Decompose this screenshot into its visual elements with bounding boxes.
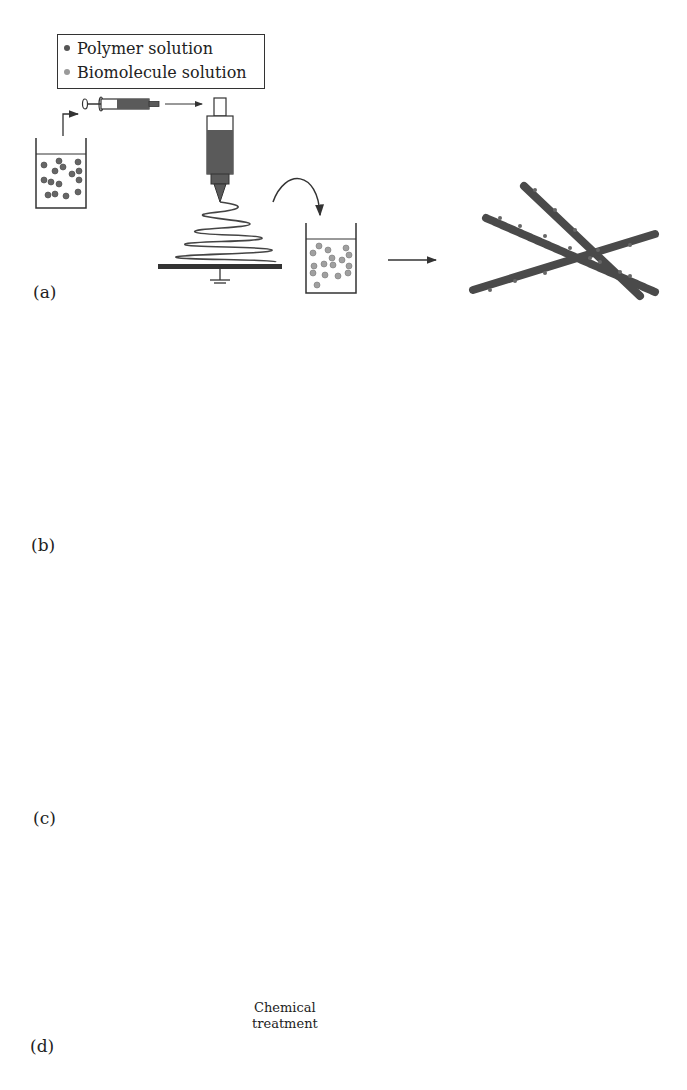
electrospinning-diagram <box>0 0 687 1090</box>
beaker-biomolecule-solution <box>306 223 356 293</box>
syringe-icon <box>83 97 160 111</box>
chemical-treatment-label: Chemical treatment <box>252 1000 318 1032</box>
legend-item-biomolecule: Biomolecule solution <box>64 63 247 82</box>
arrow-icon <box>63 114 78 136</box>
panel-label-d: (d) <box>30 1036 54 1056</box>
polymer-dot-icon <box>64 45 70 51</box>
panel-label-b: (b) <box>31 535 55 555</box>
biomolecule-dot-icon <box>64 69 70 75</box>
fiber-jet <box>176 202 276 262</box>
legend: Polymer solution Biomolecule solution <box>57 34 265 89</box>
panel-a <box>36 97 655 296</box>
fibers-surface-adsorbed <box>473 186 655 296</box>
grounded-collector <box>158 264 282 283</box>
panel-label-c: (c) <box>33 808 56 828</box>
legend-item-polymer: Polymer solution <box>64 39 213 58</box>
transfer-arrow-icon <box>273 179 320 215</box>
beaker-polymer-solution <box>36 138 86 208</box>
spinneret-icon <box>207 98 233 202</box>
panel-label-a: (a) <box>33 282 56 302</box>
